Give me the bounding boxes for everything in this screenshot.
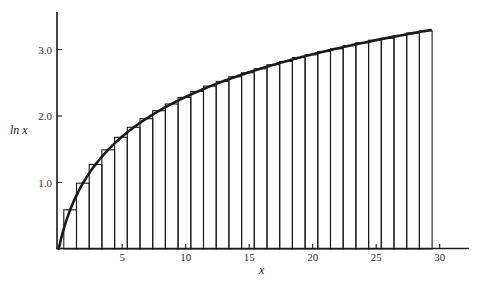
approximation-rectangle bbox=[216, 81, 229, 249]
approximation-rectangle bbox=[419, 31, 432, 249]
x-axis-label: x bbox=[258, 263, 265, 277]
approximation-rectangle bbox=[242, 73, 255, 249]
approximation-rectangle bbox=[369, 40, 382, 249]
x-tick-label: 5 bbox=[119, 251, 125, 263]
approximation-rectangle bbox=[191, 91, 204, 249]
approximation-rectangle bbox=[292, 58, 305, 250]
x-tick-label: 20 bbox=[307, 251, 319, 263]
y-axis-label: ln x bbox=[10, 123, 28, 137]
approximation-rectangle bbox=[305, 55, 318, 249]
x-tick-label: 10 bbox=[180, 251, 192, 263]
x-tick-label: 25 bbox=[371, 251, 383, 263]
approximation-rectangle bbox=[267, 65, 280, 249]
approximation-rectangle bbox=[343, 46, 356, 250]
approximation-rectangle bbox=[331, 49, 344, 249]
approximation-rectangle bbox=[64, 210, 77, 249]
approximation-rectangle bbox=[204, 86, 217, 249]
chart-area: 51015202530 1.02.03.0 x ln x bbox=[0, 0, 483, 281]
y-tick-label: 2.0 bbox=[38, 110, 52, 122]
x-axis-ticks: 51015202530 bbox=[119, 244, 445, 263]
approximation-rectangle bbox=[394, 36, 407, 250]
approximation-rectangle bbox=[280, 62, 293, 250]
approximation-rectangle bbox=[254, 69, 267, 249]
approximation-rectangle bbox=[153, 111, 166, 249]
approximation-rectangle bbox=[89, 165, 102, 250]
x-tick-label: 15 bbox=[244, 251, 256, 263]
approximation-rectangle bbox=[165, 104, 178, 249]
approximation-rectangle bbox=[102, 150, 115, 249]
approximation-rectangle bbox=[178, 97, 191, 249]
approximation-rectangle bbox=[115, 137, 128, 249]
x-tick-label: 30 bbox=[434, 251, 446, 263]
y-tick-label: 1.0 bbox=[38, 177, 52, 189]
approximation-rectangle bbox=[356, 43, 369, 249]
approximation-rectangle bbox=[140, 119, 153, 249]
y-axis-ticks: 1.02.03.0 bbox=[38, 44, 62, 189]
y-tick-label: 3.0 bbox=[38, 44, 52, 56]
approximation-rectangle bbox=[381, 38, 394, 249]
approximation-rectangle bbox=[407, 33, 420, 249]
approximation-rectangle bbox=[318, 52, 331, 250]
approximation-rectangle bbox=[229, 77, 242, 249]
approximation-rectangle bbox=[127, 127, 140, 249]
